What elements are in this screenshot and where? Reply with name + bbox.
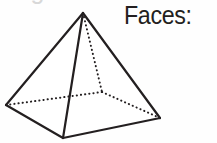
faces-prompt-label: Faces:	[124, 1, 192, 29]
worksheet-figure-panel: Edges: Faces:	[0, 0, 217, 143]
